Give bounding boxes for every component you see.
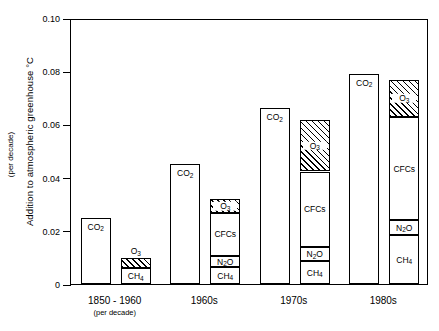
y-axis-tick-label: 0.06 (0, 120, 60, 130)
stack-segment-label: O3 (213, 202, 237, 211)
stack-segment-label: CFCs (211, 230, 239, 239)
greenhouse-contribution-chart: Addition to atmospheric greenhouse °C (p… (0, 0, 439, 331)
stack-segment-label: CH4 (122, 272, 150, 281)
co2-bar: CO2 (81, 218, 111, 285)
x-axis-category-label: 1980s (339, 295, 429, 306)
x-axis-category-label: 1850 - 1960(per decade) (70, 295, 160, 317)
co2-bar-label: CO2 (82, 223, 110, 232)
stack-segment-label: O3 (303, 141, 327, 150)
y-axis-tick-label: 0 (0, 280, 60, 290)
stack-segment: N2O (389, 220, 419, 235)
stack-segment-label: CFCs (390, 164, 418, 173)
y-axis-tick-label: 0.10 (0, 14, 60, 24)
stack-segment: CH4 (210, 267, 240, 284)
x-axis-category-label: 1970s (249, 295, 339, 306)
co2-bar: CO2 (349, 74, 379, 284)
stack-segment: CH4 (121, 268, 151, 284)
x-axis-category-label: 1960s (160, 295, 250, 306)
category-subtitle: (per decade) (70, 308, 160, 317)
category-name: 1980s (370, 295, 397, 306)
y-axis-title-group: Addition to atmospheric greenhouse °C (p… (0, 0, 38, 290)
stack-segment: N2O (300, 247, 330, 261)
stack-segment: CFCs (300, 172, 330, 248)
stack-segment: CFCs (210, 213, 240, 256)
category-name: 1850 - 1960 (88, 295, 141, 306)
y-axis-tick-label: 0.02 (0, 227, 60, 237)
stack-segment: O3 (389, 80, 419, 117)
co2-bar-label: CO2 (350, 79, 378, 88)
stack-segment-label: CH4 (211, 271, 239, 280)
co2-bar-label: CO2 (261, 113, 289, 122)
category-name: 1970s (280, 295, 307, 306)
plot-area: CO2CH4O3CO2CH4N2OCFCsO3CO2CH4N2OCFCsO3CO… (70, 19, 428, 285)
y-axis-tick-label: 0.08 (0, 67, 60, 77)
stack-segment-label: CH4 (301, 268, 329, 277)
stack-segment-label: CFCs (301, 205, 329, 214)
stack-segment: O3 (121, 258, 151, 268)
stack-segment-label: O3 (392, 94, 416, 103)
stack-segment-label: CH4 (390, 255, 418, 264)
stack-segment: CH4 (300, 261, 330, 284)
y-axis-tick-label: 0.04 (0, 174, 60, 184)
stack-segment: N2O (210, 256, 240, 267)
stack-segment-label: O3 (122, 247, 150, 256)
co2-bar: CO2 (260, 108, 290, 284)
stack-segment: CH4 (389, 235, 419, 284)
stack-segment-label: N2O (301, 250, 329, 259)
stack-segment-label: N2O (211, 257, 239, 266)
stack-segment: O3 (210, 199, 240, 212)
stack-segment-label: N2O (390, 224, 418, 233)
co2-bar-label: CO2 (171, 169, 199, 178)
stack-segment: CFCs (389, 117, 419, 220)
stack-segment: O3 (300, 120, 330, 172)
category-name: 1960s (191, 295, 218, 306)
co2-bar: CO2 (170, 164, 200, 284)
